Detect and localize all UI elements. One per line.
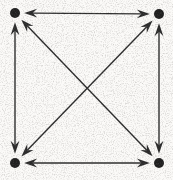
vertex-bottom-right <box>154 158 164 168</box>
edge-top <box>33 13 142 14</box>
figure-canvas: K4 drawn as a square with both diagonals… <box>0 0 173 180</box>
vertex-bottom-left <box>10 158 20 168</box>
digraph-svg <box>0 0 173 180</box>
vertex-top-left <box>10 8 20 18</box>
vertex-top-right <box>154 9 164 19</box>
